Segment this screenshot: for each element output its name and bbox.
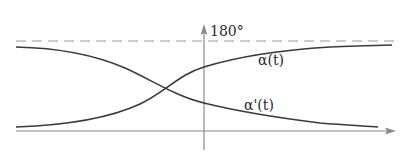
diagram-canvas: 180° α(t) α'(t) <box>0 0 408 154</box>
x-axis <box>16 128 396 135</box>
curve-alpha-prime <box>16 47 378 127</box>
y-max-label: 180° <box>210 23 244 39</box>
curve-alpha-label: α(t) <box>258 52 284 68</box>
curve-alpha-prime-label: α'(t) <box>244 97 274 113</box>
